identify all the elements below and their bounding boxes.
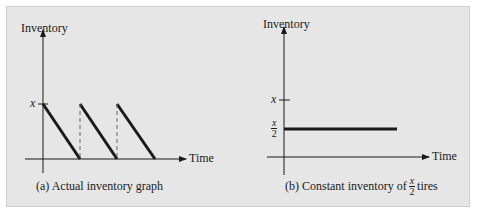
panel-b-level-label: x 2 xyxy=(271,118,277,139)
caption-suffix: tires xyxy=(417,179,438,194)
panel-b-y-label: Inventory xyxy=(263,17,310,32)
panel-a-axes xyxy=(25,30,186,173)
panel-b-y-tick-label: x xyxy=(271,92,276,107)
panel-a-caption: (a) Actual inventory graph xyxy=(36,179,163,194)
panel-b-axes xyxy=(267,27,429,175)
caption-frac-denominator: 2 xyxy=(409,187,414,197)
panel-a-y-tick-label: x xyxy=(30,96,35,111)
panel-a-x-label: Time xyxy=(189,151,214,166)
caption-fraction: x 2 xyxy=(409,176,415,197)
panel-a-sawtooth xyxy=(43,104,155,159)
panel-b-caption: (b) Constant inventory of x 2 tires xyxy=(285,176,438,197)
panel-a-y-label: Inventory xyxy=(21,21,68,36)
caption-prefix: (b) Constant inventory of xyxy=(285,179,407,194)
panel-b-x-label: Time xyxy=(432,149,457,164)
level-label-denominator: 2 xyxy=(272,129,277,139)
